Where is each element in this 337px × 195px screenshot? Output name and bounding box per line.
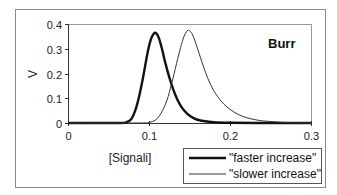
legend: "faster increase" "slower increase" [184,149,322,184]
legend-label-faster: "faster increase" [229,151,316,165]
chart: 00.10.20.30.400.10.20.3 Burr V [Signali]… [0,0,337,195]
y-axis-title: V [26,70,40,78]
y-tick-label: 0 [56,118,62,130]
x-tick-label: 0.2 [223,130,238,142]
y-tick-label: 0.3 [47,44,62,56]
legend-label-slower: "slower increase" [229,167,321,181]
y-tick-label: 0.4 [47,19,62,31]
y-tick-label: 0.2 [47,69,62,81]
chart-annotation: Burr [268,36,295,51]
x-tick-label: 0 [65,130,71,142]
y-tick-label: 0.1 [47,93,62,105]
x-tick-label: 0.1 [142,130,157,142]
x-tick-label: 0.3 [304,130,319,142]
x-axis-title: [Signali] [109,151,152,165]
